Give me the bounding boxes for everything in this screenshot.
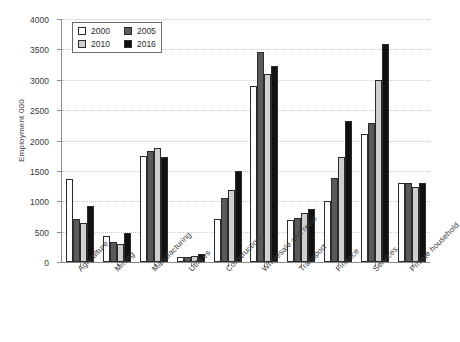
bar xyxy=(66,179,73,262)
legend-item: 2016 xyxy=(124,39,156,49)
bar xyxy=(264,74,271,262)
bar xyxy=(361,134,368,262)
bar xyxy=(257,52,264,262)
bar xyxy=(345,121,352,262)
legend-item: 2005 xyxy=(124,26,156,36)
bar-group xyxy=(246,19,283,262)
legend-swatch-icon xyxy=(78,40,86,48)
bar-group xyxy=(99,19,136,262)
bar xyxy=(73,219,80,262)
legend-label: 2010 xyxy=(91,39,110,49)
bar-group xyxy=(172,19,209,262)
bar xyxy=(228,190,235,262)
plot-area: 40003500300025002000150010005000 Agricul… xyxy=(62,19,430,262)
legend-swatch-icon xyxy=(78,27,86,35)
bar xyxy=(412,187,419,262)
legend-swatch-icon xyxy=(124,40,132,48)
y-tick-label: 3500 xyxy=(30,45,49,55)
bar-group xyxy=(320,19,357,262)
y-tick-label: 2500 xyxy=(30,106,49,116)
bar xyxy=(154,148,161,262)
bar xyxy=(331,178,338,262)
bar xyxy=(221,198,228,262)
bar xyxy=(338,157,345,262)
bar xyxy=(177,257,184,262)
bar xyxy=(382,44,389,262)
y-tick-label: 2000 xyxy=(30,137,49,147)
y-axis-title: Employment 000 xyxy=(17,66,26,196)
bar xyxy=(271,66,278,262)
y-tick: 0 xyxy=(57,262,62,263)
y-tick-label: 0 xyxy=(44,258,49,268)
bar-group xyxy=(136,19,173,262)
bar-group xyxy=(393,19,430,262)
bar xyxy=(368,123,375,262)
y-tick-label: 1000 xyxy=(30,197,49,207)
legend-label: 2016 xyxy=(137,39,156,49)
y-tick-label: 3000 xyxy=(30,76,49,86)
legend-item: 2010 xyxy=(78,39,110,49)
bar xyxy=(147,151,154,262)
bar xyxy=(375,80,382,262)
bar xyxy=(161,157,168,262)
y-tick-label: 500 xyxy=(35,228,49,238)
bar xyxy=(214,219,221,262)
bar xyxy=(235,171,242,262)
legend-swatch-icon xyxy=(124,27,132,35)
bar-group xyxy=(209,19,246,262)
bar-group xyxy=(356,19,393,262)
bar xyxy=(324,201,331,262)
legend-label: 2005 xyxy=(137,26,156,36)
bar-group xyxy=(62,19,99,262)
legend-label: 2000 xyxy=(91,26,110,36)
bar xyxy=(405,183,412,262)
y-tick-label: 1500 xyxy=(30,167,49,177)
y-tick-label: 4000 xyxy=(30,15,49,25)
bar xyxy=(110,242,117,262)
bar xyxy=(184,257,191,262)
legend-item: 2000 xyxy=(78,26,110,36)
bar xyxy=(140,156,147,262)
chart-legend: 2000200520102016 xyxy=(72,22,162,53)
